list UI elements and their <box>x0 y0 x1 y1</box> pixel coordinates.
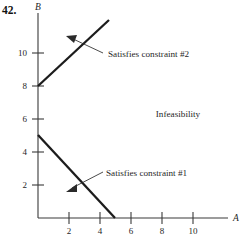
x-tick-label-6: 6 <box>129 226 134 236</box>
y-tick-label-10: 10 <box>18 48 28 58</box>
arrow-head-constraint-1 <box>66 184 77 192</box>
figure-container: 42. 2 4 6 8 10 2 4 6 8 10 B A <box>0 0 245 237</box>
linear-programming-plot: 2 4 6 8 10 2 4 6 8 10 B A Satisfies cons… <box>0 0 245 237</box>
x-tick-label-10: 10 <box>189 226 199 236</box>
annotation-constraint-1: Satisfies constraint #1 <box>106 168 188 178</box>
x-tick-label-4: 4 <box>98 226 103 236</box>
constraint-line-1 <box>38 135 115 218</box>
x-tick-label-8: 8 <box>160 226 165 236</box>
x-axis-title: A <box>232 213 239 223</box>
annotation-constraint-2: Satisfies constraint #2 <box>108 49 190 59</box>
y-tick-label-6: 6 <box>23 114 28 124</box>
annotation-infeasibility: Infeasibility <box>156 109 201 119</box>
arrow-head-constraint-2 <box>66 35 77 43</box>
y-tick-label-4: 4 <box>23 147 28 157</box>
y-axis-title: B <box>35 2 41 12</box>
x-tick-label-2: 2 <box>67 226 72 236</box>
y-tick-label-2: 2 <box>23 180 28 190</box>
constraint-line-2 <box>38 20 109 86</box>
y-tick-label-8: 8 <box>23 81 28 91</box>
